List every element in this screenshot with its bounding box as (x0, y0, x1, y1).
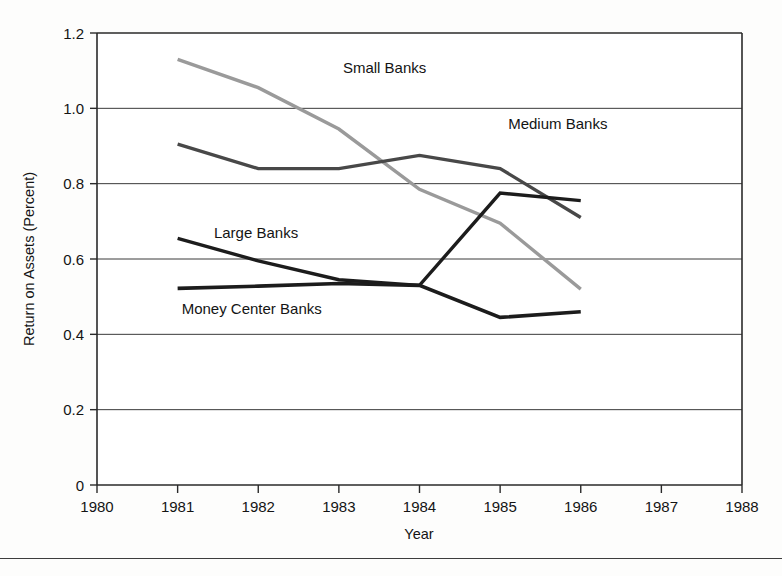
x-tick-labels-group: 198019811982198319841985198619871988 (80, 498, 758, 515)
series-label-small-banks: Small Banks (343, 59, 426, 76)
x-tick-label-1986: 1986 (564, 498, 597, 515)
y-tick-label-0.8: 0.8 (63, 175, 84, 192)
y-tick-label-0.2: 0.2 (63, 401, 84, 418)
footer-divider (0, 558, 782, 559)
series-label-money-center-banks: Money Center Banks (182, 300, 322, 317)
y-tick-label-1.2: 1.2 (63, 25, 84, 42)
series-label-large-banks: Large Banks (214, 224, 298, 241)
x-tick-label-1980: 1980 (80, 498, 113, 515)
x-tick-label-1983: 1983 (322, 498, 355, 515)
x-tick-label-1981: 1981 (161, 498, 194, 515)
x-tick-label-1985: 1985 (483, 498, 516, 515)
x-tick-label-1988: 1988 (725, 498, 758, 515)
x-tick-label-1987: 1987 (645, 498, 678, 515)
series-label-medium-banks: Medium Banks (508, 115, 607, 132)
y-tick-label-0: 0 (76, 477, 84, 494)
y-tick-label-0.4: 0.4 (63, 326, 84, 343)
figure-container: 00.20.40.60.81.01.2 19801981198219831984… (0, 0, 782, 576)
y-axis-title: Return on Assets (Percent) (21, 172, 37, 346)
y-tick-label-0.6: 0.6 (63, 251, 84, 268)
y-tick-label-1.0: 1.0 (63, 100, 84, 117)
x-tick-label-1982: 1982 (242, 498, 275, 515)
return-on-assets-line-chart: 00.20.40.60.81.01.2 19801981198219831984… (0, 0, 782, 576)
x-tick-label-1984: 1984 (403, 498, 436, 515)
y-tick-labels-group: 00.20.40.60.81.01.2 (63, 25, 84, 494)
x-tick-marks-group (97, 485, 742, 493)
x-axis-title: Year (404, 526, 433, 542)
